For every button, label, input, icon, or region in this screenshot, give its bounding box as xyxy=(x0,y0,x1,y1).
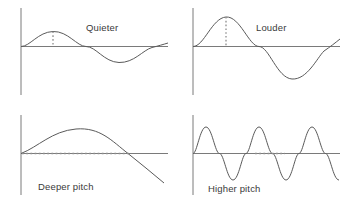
caption-deeper-pitch: Deeper pitch xyxy=(38,181,94,192)
waveform-chart-louder xyxy=(172,0,343,102)
panel-deeper-pitch: Deeper pitch xyxy=(0,103,171,205)
sine-wave-deeper-pitch xyxy=(21,129,164,183)
sine-wave-quieter xyxy=(21,31,168,62)
panel-higher-pitch: Higher pitch xyxy=(172,103,343,205)
caption-louder: Louder xyxy=(256,22,286,33)
waveform-chart-quieter xyxy=(0,0,171,102)
panel-louder: Louder xyxy=(172,0,343,102)
panel-quieter: Quieter xyxy=(0,0,171,102)
caption-higher-pitch: Higher pitch xyxy=(208,183,261,194)
caption-quieter: Quieter xyxy=(86,22,118,33)
sound-wave-figure: Quieter Louder Deeper pitch Higher pitch xyxy=(0,0,343,205)
